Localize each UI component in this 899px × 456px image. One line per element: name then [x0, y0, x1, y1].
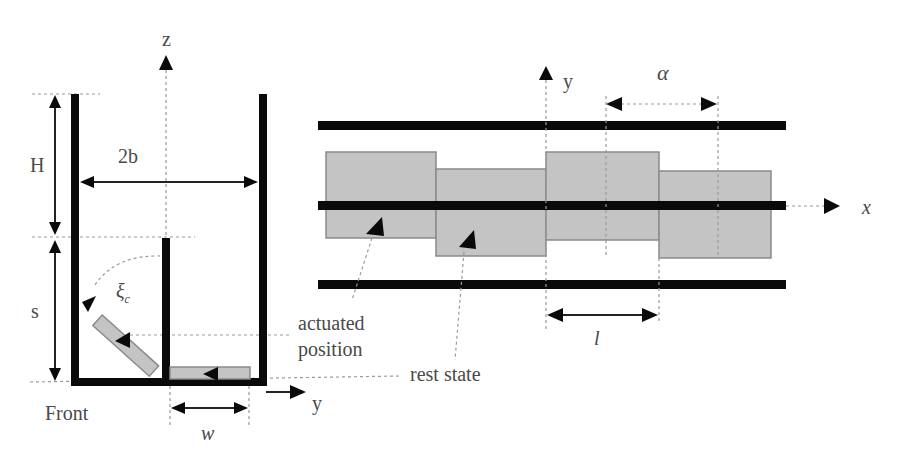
actuated-label-line1: actuated	[298, 312, 365, 334]
alpha-arrow-right-icon	[701, 97, 717, 111]
left-wall	[71, 94, 79, 386]
y-axis-label-front: y	[312, 392, 322, 415]
x-axis-arrow-icon	[824, 198, 840, 214]
actuated-label-line2: position	[298, 338, 362, 361]
z-axis-arrow-icon	[159, 55, 173, 70]
H-arrow-bottom-icon	[49, 222, 61, 235]
s-arrow-bottom-icon	[49, 368, 61, 381]
rest-leader-line	[455, 252, 464, 360]
z-axis-label: z	[162, 28, 171, 50]
top-rail	[318, 121, 786, 130]
xi-arrow-icon	[82, 296, 96, 312]
2b-arrow-right-icon	[244, 176, 258, 188]
s-arrow-top-icon	[49, 240, 61, 253]
middle-rail	[318, 201, 786, 210]
x-axis-label: x	[861, 196, 871, 218]
w-arrow-right-icon	[234, 402, 248, 414]
w-arrow-left-icon	[171, 402, 185, 414]
l-arrow-left-icon	[547, 308, 563, 322]
y-axis-arrow-front-icon	[290, 385, 306, 399]
H-label: H	[30, 154, 44, 176]
y-axis-arrow-top-icon	[539, 66, 553, 80]
2b-arrow-left-icon	[80, 176, 94, 188]
xi-angle-arc	[95, 256, 160, 285]
l-arrow-right-icon	[642, 308, 658, 322]
diagram-canvas: z H s 2b ξc y	[0, 0, 899, 456]
plate-4	[659, 171, 771, 258]
plate-2	[436, 169, 546, 256]
front-label: Front	[45, 402, 89, 424]
l-label: l	[594, 327, 600, 349]
actuated-leader-line	[352, 238, 372, 300]
top-view-panel: y x α l	[318, 60, 871, 360]
y-axis-label-top: y	[563, 70, 573, 93]
rest-state-label: rest state	[410, 363, 481, 385]
s-label: s	[31, 300, 39, 322]
alpha-arrow-left-icon	[606, 97, 622, 111]
right-wall	[259, 94, 267, 386]
2b-label: 2b	[118, 145, 138, 167]
divider-wall	[162, 238, 170, 386]
xi-label: ξc	[116, 280, 131, 306]
plate-3	[546, 152, 659, 240]
w-label: w	[201, 422, 215, 444]
alpha-label: α	[657, 60, 669, 85]
H-arrow-top-icon	[49, 95, 61, 108]
bottom-rail	[318, 280, 786, 289]
